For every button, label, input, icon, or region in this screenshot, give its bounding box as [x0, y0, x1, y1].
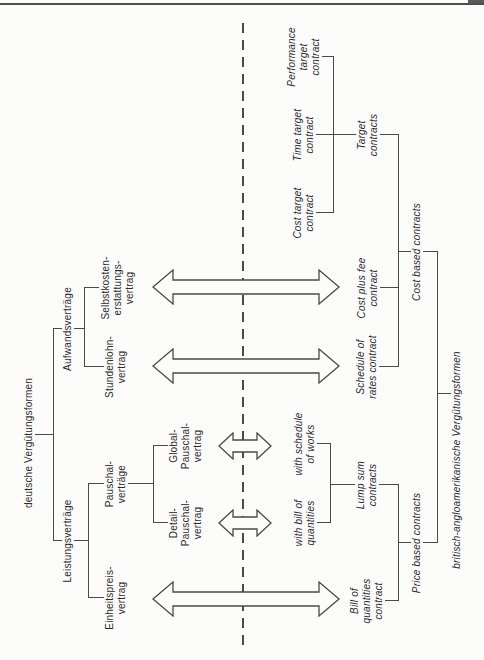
connector: [398, 134, 399, 367]
node-cost-plus-fee-contract: Cost plus fee contract: [356, 248, 380, 328]
connector: [330, 484, 355, 485]
node-einheitspreis-vertrag: Einheitspreis- vertrag: [104, 558, 128, 638]
node-schedule-of-rates-contract: Schedule of rates contract: [355, 327, 379, 407]
connector: [398, 251, 411, 252]
connector: [84, 366, 104, 367]
node-britisch-angloamerikanische-verguetungsformen: britisch-angloamerikanische Vergütungsfo…: [451, 338, 463, 582]
connector: [88, 597, 104, 598]
node-selbstkosten-erstattungs-vertrag: Selbstkosten- erstattungs- vertrag: [100, 248, 136, 328]
connector: [380, 134, 398, 135]
connector: [398, 542, 411, 543]
connector: [88, 483, 89, 598]
double-arrow-icon-selbstkosten-cost-plus-fee: [152, 269, 340, 305]
connector: [74, 328, 84, 329]
connector: [330, 443, 331, 523]
node-price-based-contracts: Price based contracts: [411, 483, 423, 603]
connector: [153, 445, 154, 523]
double-arrow-icon-global-pauschal-with-schedule: [218, 432, 272, 460]
node-aufwandsvertraege: Aufwandsverträge: [62, 279, 74, 379]
connector: [128, 483, 153, 484]
connector: [317, 522, 330, 523]
connector: [53, 540, 62, 541]
connector: [423, 542, 437, 543]
connector: [53, 328, 54, 541]
connector: [53, 328, 62, 329]
node-stundenlohn-vertrag: Stundenlohn- vertrag: [104, 327, 128, 407]
divider-dashed-line: [242, 20, 244, 645]
connector: [74, 540, 88, 541]
connector: [379, 484, 398, 485]
node-bill-of-quantities-contract: Bill of quantities contract: [349, 561, 385, 641]
connector: [333, 56, 334, 213]
connector: [316, 134, 333, 135]
connector: [437, 393, 451, 394]
connector: [316, 212, 333, 213]
node-target-contracts: Target contracts: [356, 95, 380, 175]
connector: [153, 445, 168, 446]
connector: [437, 251, 438, 543]
node-deutsche-verguetungsformen: deutsche Vergütungsformen: [23, 343, 35, 543]
node-cost-based-contracts: Cost based contracts: [411, 192, 423, 312]
node-with-bill-of-quantities: with bill of quantities: [293, 483, 317, 563]
connector: [35, 434, 53, 435]
connector: [153, 522, 168, 523]
node-pauschal-vertraege: Pauschal- verträge: [104, 444, 128, 524]
node-with-schedule-of-works: with schedule of works: [293, 404, 317, 484]
node-lump-sum-contracts: Lump sum contracts: [355, 445, 379, 525]
rotated-diagram: deutsche Vergütungsformen Leistungsvertr…: [0, 0, 484, 660]
connector: [322, 56, 333, 57]
connector: [380, 287, 398, 288]
connector: [317, 443, 330, 444]
node-detail-pauschal-vertrag: Detail- Pauschal- vertrag: [168, 483, 204, 563]
connector: [379, 366, 398, 367]
book-page: deutsche Vergütungsformen Leistungsvertr…: [0, 0, 484, 660]
node-performance-target-contract: Performance target contract: [286, 17, 322, 97]
node-leistungsvertraege: Leistungsverträge: [62, 491, 74, 591]
connector: [88, 483, 104, 484]
connector: [84, 287, 85, 367]
connector: [423, 251, 437, 252]
connector: [333, 134, 356, 135]
double-arrow-icon-einheitspreis-bill-of-quantities: [152, 581, 340, 617]
node-cost-target-contract: Cost target contract: [292, 173, 316, 253]
node-time-target-contract: Time target contract: [292, 95, 316, 175]
connector: [84, 287, 99, 288]
node-global-pauschal-vertrag: Global- Pauschal- vertrag: [168, 406, 204, 486]
double-arrow-icon-stundenlohn-schedule-of-rates: [152, 348, 340, 384]
connector: [385, 600, 398, 601]
double-arrow-icon-detail-pauschal-with-bill: [218, 509, 272, 537]
